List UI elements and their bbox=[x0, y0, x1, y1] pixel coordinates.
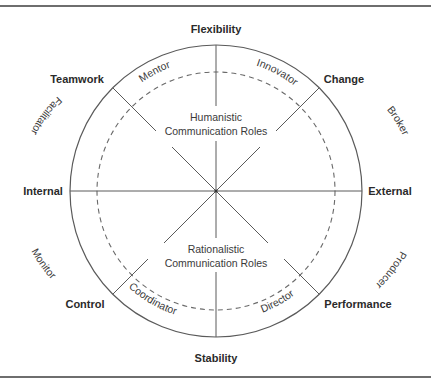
diagonal-change-outer bbox=[276, 88, 319, 131]
role-facilitator: Facilitator bbox=[29, 95, 65, 138]
diagonal-change-inner bbox=[216, 147, 260, 191]
group-rationalistic-line1: Rationalistic bbox=[188, 243, 245, 255]
diagonal-teamwork-inner bbox=[172, 147, 216, 191]
diagonal-teamwork-outer bbox=[113, 88, 156, 131]
axis-label-flexibility: Flexibility bbox=[191, 23, 243, 35]
axis-label-performance: Performance bbox=[324, 298, 391, 310]
communication-roles-diagram: Flexibility Stability Internal External … bbox=[0, 0, 431, 380]
role-monitor: Monitor bbox=[30, 246, 60, 281]
axis-label-internal: Internal bbox=[23, 185, 63, 197]
center-point bbox=[214, 189, 217, 192]
role-coordinator: Coordinator bbox=[127, 280, 179, 317]
axis-label-external: External bbox=[368, 185, 411, 197]
group-humanistic-line2: Communication Roles bbox=[165, 125, 268, 137]
role-producer: Producer bbox=[374, 250, 410, 293]
axis-label-control: Control bbox=[65, 298, 104, 310]
diagonal-control-inner bbox=[164, 191, 216, 243]
role-mentor: Mentor bbox=[136, 58, 172, 84]
diagonal-performance-inner bbox=[216, 191, 268, 243]
axis-label-change: Change bbox=[324, 73, 364, 85]
group-humanistic-line1: Humanistic bbox=[190, 111, 242, 123]
role-broker: Broker bbox=[385, 103, 412, 137]
role-innovator: Innovator bbox=[255, 56, 301, 88]
role-director: Director bbox=[259, 287, 297, 315]
axis-label-stability: Stability bbox=[195, 352, 239, 364]
axis-label-teamwork: Teamwork bbox=[50, 73, 104, 85]
group-rationalistic-line2: Communication Roles bbox=[165, 257, 268, 269]
